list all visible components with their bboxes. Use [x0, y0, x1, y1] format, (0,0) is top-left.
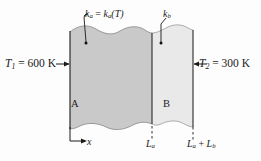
dim-La-subscript: a	[152, 142, 155, 149]
k-a-leader-dot	[85, 42, 88, 45]
axis-x-symbol: x	[87, 136, 91, 147]
temp-right-equals: =	[209, 57, 221, 69]
label-material-a: A	[71, 99, 79, 110]
label-dimension-LaLb: La + Lb	[187, 139, 216, 150]
temp-left-equals: =	[15, 57, 27, 69]
temp-right-unit: K	[242, 57, 250, 69]
label-conductivity-b: kb	[163, 9, 171, 20]
wall-a-body	[70, 26, 152, 130]
label-temperature-right: T2 = 300 K	[199, 58, 250, 71]
temp-left-unit: K	[48, 57, 56, 69]
wall-diagram-svg	[0, 0, 261, 161]
temp-right-value: 300	[222, 57, 239, 69]
temp-left-arrowhead	[64, 62, 70, 67]
k-b-leader-dot	[160, 42, 163, 45]
label-temperature-left: T1 = 600 K	[5, 58, 56, 71]
label-conductivity-a: ka = ka(T)	[85, 9, 124, 20]
k-a-equals: =	[93, 8, 104, 19]
label-axis-x: x	[87, 137, 91, 147]
k-a-argument: (T)	[111, 8, 123, 19]
heat-conduction-figure: T1 = 600 K T2 = 300 K ka = ka(T) kb A B …	[0, 0, 261, 161]
wall-b-body	[152, 25, 193, 127]
label-material-b: B	[163, 99, 170, 110]
label-dimension-La: La	[146, 139, 155, 150]
dim-LaLb-plus: +	[196, 138, 207, 149]
k-b-subscript: b	[167, 12, 170, 19]
dim-LaLb-subscript2: b	[212, 142, 215, 149]
temp-left-value: 600	[28, 57, 45, 69]
